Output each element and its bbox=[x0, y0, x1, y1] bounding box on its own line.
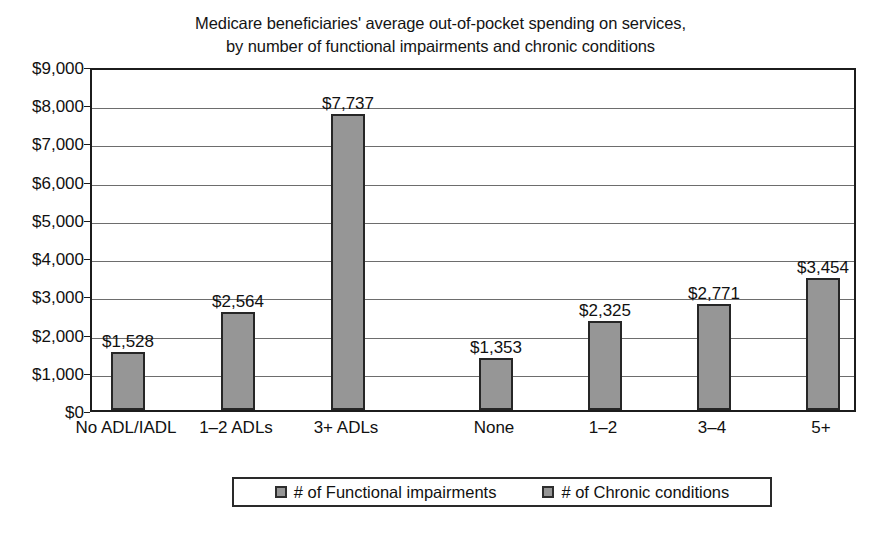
y-tick-label: $1,000 bbox=[0, 366, 84, 383]
legend-label: # of Functional impairments bbox=[294, 484, 497, 501]
y-tick-label: $8,000 bbox=[0, 98, 84, 115]
chart-legend: # of Functional impairments# of Chronic … bbox=[232, 477, 772, 507]
x-axis: No ADL/IADL1–2 ADLs3+ ADLsNone1–23–45+ bbox=[90, 418, 856, 444]
bar-value-label: $1,528 bbox=[73, 333, 183, 350]
bar bbox=[111, 352, 145, 410]
y-tick-label: $5,000 bbox=[0, 213, 84, 230]
y-tick-mark bbox=[84, 412, 90, 413]
bar-value-label: $2,325 bbox=[550, 302, 660, 319]
bar bbox=[697, 304, 731, 410]
bar-value-label: $3,454 bbox=[768, 259, 878, 276]
legend-item: # of Functional impairments bbox=[275, 484, 497, 501]
bar bbox=[806, 278, 840, 410]
y-tick-label: $9,000 bbox=[0, 60, 84, 77]
square-swatch-icon bbox=[542, 486, 554, 498]
bar-value-label: $2,771 bbox=[659, 285, 769, 302]
chart-title-line-2: by number of functional impairments and … bbox=[0, 35, 881, 58]
bar-value-label: $2,564 bbox=[183, 293, 293, 310]
bars-layer: $1,528$2,564$7,737$1,353$2,325$2,771$3,4… bbox=[92, 70, 854, 410]
y-tick-label: $2,000 bbox=[0, 328, 84, 345]
square-swatch-icon bbox=[275, 486, 287, 498]
legend-label: # of Chronic conditions bbox=[561, 484, 729, 501]
y-tick-label: $7,000 bbox=[0, 136, 84, 153]
chart-title: Medicare beneficiaries' average out-of-p… bbox=[0, 12, 881, 58]
y-tick-label: $6,000 bbox=[0, 175, 84, 192]
y-tick-label: $4,000 bbox=[0, 251, 84, 268]
bar bbox=[479, 358, 513, 410]
legend-item: # of Chronic conditions bbox=[542, 484, 729, 501]
bar-value-label: $7,737 bbox=[293, 95, 403, 112]
bar bbox=[331, 114, 365, 410]
x-tick-label: 5+ bbox=[751, 418, 881, 437]
plot-area: $1,528$2,564$7,737$1,353$2,325$2,771$3,4… bbox=[90, 68, 856, 412]
x-tick-label: 3+ ADLs bbox=[276, 418, 416, 437]
bar-value-label: $1,353 bbox=[441, 339, 551, 356]
y-tick-label: $3,000 bbox=[0, 289, 84, 306]
bar bbox=[588, 321, 622, 410]
y-axis: $9,000$8,000$7,000$6,000$5,000$4,000$3,0… bbox=[0, 68, 84, 412]
bar bbox=[221, 312, 255, 410]
chart-title-line-1: Medicare beneficiaries' average out-of-p… bbox=[0, 12, 881, 35]
